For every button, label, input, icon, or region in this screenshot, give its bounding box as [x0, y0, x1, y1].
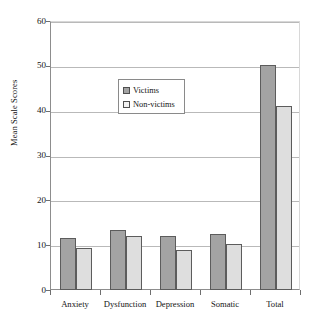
bar-victims [160, 236, 176, 290]
bar-nonvictims [126, 236, 142, 290]
bar-nonvictims [76, 248, 92, 290]
y-axis-tick-label: 10 [16, 241, 46, 250]
x-axis-tick-label: Dysfunction [100, 299, 150, 310]
bar-nonvictims [226, 244, 242, 290]
bars-layer [51, 22, 299, 290]
y-axis-tick-label: 50 [16, 61, 46, 70]
bar-chart: Mean Scale Scores 0102030405060 AnxietyD… [0, 0, 317, 330]
y-axis-tick-label: 40 [16, 106, 46, 115]
bar-victims [260, 65, 276, 290]
bar-victims [110, 230, 126, 290]
x-axis-tick-mark [200, 290, 201, 295]
y-axis-tick-label: 60 [16, 17, 46, 26]
y-axis-tick-label: 20 [16, 196, 46, 205]
legend-swatch-nonvictims-icon [123, 101, 130, 108]
x-axis-tick-mark [300, 290, 301, 295]
x-axis-tick-mark [100, 290, 101, 295]
legend-label-nonvictims: Non-victims [133, 100, 175, 109]
y-axis-tick-label: 30 [16, 151, 46, 160]
x-axis-tick-label: Anxiety [50, 299, 100, 310]
chart-legend: Victims Non-victims [118, 79, 185, 114]
bar-nonvictims [276, 106, 292, 290]
bar-victims [210, 234, 226, 290]
x-axis-tick-mark [150, 290, 151, 295]
y-axis-tick-label: 0 [16, 286, 46, 295]
bar-nonvictims [176, 250, 192, 290]
legend-swatch-victims-icon [123, 87, 130, 94]
x-axis-tick-mark [50, 290, 51, 295]
bar-victims [60, 238, 76, 290]
x-axis-tick-label: Somatic [200, 299, 250, 310]
x-axis-tick-label: Total [250, 299, 300, 310]
x-axis-tick-label: Depression [150, 299, 200, 310]
legend-item-victims: Victims [123, 83, 184, 97]
y-axis-title: Mean Scale Scores [9, 36, 19, 146]
legend-item-nonvictims: Non-victims [123, 97, 184, 111]
legend-label-victims: Victims [133, 86, 159, 95]
x-axis-tick-mark [250, 290, 251, 295]
